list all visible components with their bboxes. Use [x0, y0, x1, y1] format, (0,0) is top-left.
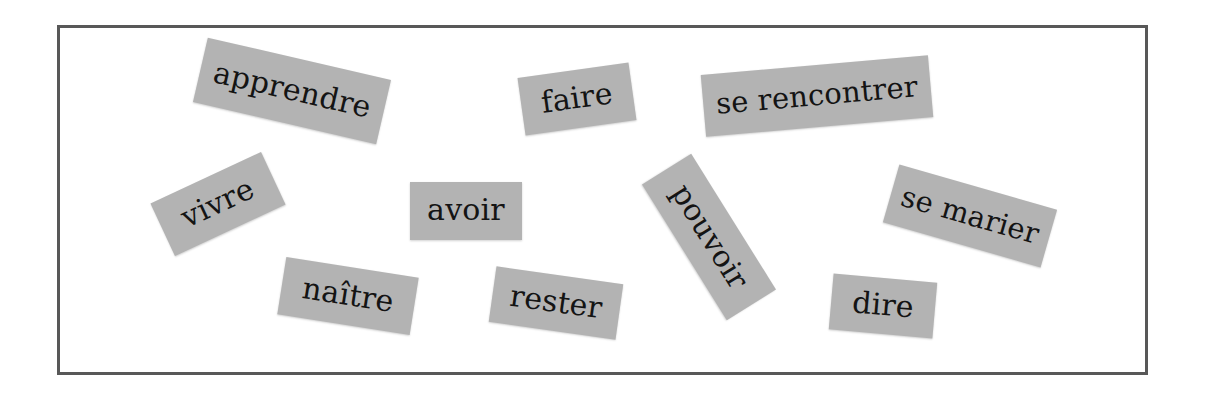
word-card-label: pouvoir — [666, 179, 753, 294]
card-se-rencontrer[interactable]: se rencontrer — [701, 55, 934, 137]
worksheet-page: apprendrefairese rencontrervivreavoirpou… — [0, 0, 1205, 404]
card-dire[interactable]: dire — [829, 274, 937, 339]
word-card-label: naître — [300, 273, 396, 317]
word-cards-layer: apprendrefairese rencontrervivreavoirpou… — [0, 0, 1205, 404]
word-card-label: se rencontrer — [715, 72, 919, 119]
card-vivre[interactable]: vivre — [150, 152, 285, 256]
card-avoir[interactable]: avoir — [410, 182, 522, 240]
card-apprendre[interactable]: apprendre — [193, 38, 391, 145]
card-se-marier[interactable]: se marier — [883, 165, 1057, 268]
word-card-label: rester — [508, 281, 604, 324]
card-naitre[interactable]: naître — [277, 257, 418, 335]
word-card-label: apprendre — [211, 57, 374, 122]
card-rester[interactable]: rester — [489, 266, 624, 339]
word-card-label: faire — [539, 78, 614, 118]
word-card-label: se marier — [898, 182, 1043, 249]
word-card-label: vivre — [177, 173, 259, 233]
card-pouvoir[interactable]: pouvoir — [642, 154, 776, 320]
word-card-label: dire — [851, 287, 915, 322]
word-card-label: avoir — [427, 195, 505, 225]
card-faire[interactable]: faire — [518, 62, 637, 135]
